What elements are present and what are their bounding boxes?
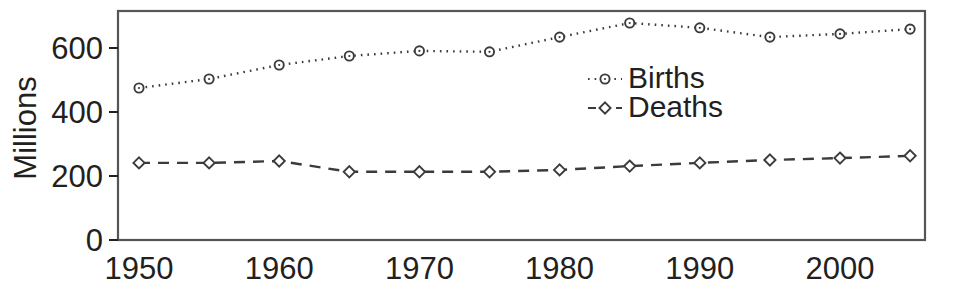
data-point-center: [769, 36, 771, 38]
data-point-marker: [764, 154, 775, 165]
data-point-center: [418, 50, 420, 52]
data-point-marker: [484, 166, 495, 177]
data-point-center: [559, 36, 561, 38]
series-line: [139, 156, 910, 172]
data-point-center: [699, 27, 701, 29]
series-line: [139, 23, 910, 88]
data-point-center: [208, 78, 210, 80]
data-point-center: [348, 55, 350, 57]
plot-area-border: [118, 11, 925, 240]
series-deaths: [133, 150, 915, 177]
x-tick-label: 1990: [665, 251, 734, 286]
data-point-marker: [834, 153, 845, 164]
data-point-marker: [133, 157, 144, 168]
y-tick-label: 600: [51, 31, 103, 66]
chart-legend: BirthsDeaths: [588, 61, 723, 123]
legend-item-deaths: Deaths: [588, 90, 723, 123]
data-point-marker: [274, 155, 285, 166]
data-point-marker: [204, 157, 215, 168]
chart-container: 0200400600195019601970198019902000Millio…: [0, 0, 958, 289]
x-tick-label: 2000: [806, 251, 875, 286]
axis-ticks: [109, 48, 118, 240]
data-point-marker: [624, 161, 635, 172]
y-tick-label: 400: [51, 95, 103, 130]
data-point-center: [909, 28, 911, 30]
data-point-marker: [905, 150, 916, 161]
line-chart: 0200400600195019601970198019902000Millio…: [0, 0, 958, 289]
legend-marker-center: [604, 78, 606, 80]
legend-label: Deaths: [628, 90, 723, 123]
x-tick-label: 1970: [385, 251, 454, 286]
plot-frame: [118, 11, 925, 240]
data-point-center: [278, 64, 280, 66]
data-point-center: [629, 22, 631, 24]
y-tick-label: 200: [51, 159, 103, 194]
y-tick-label: 0: [86, 223, 103, 258]
legend-marker: [599, 102, 610, 113]
y-axis-title: Millions: [8, 76, 43, 179]
x-tick-label: 1960: [245, 251, 314, 286]
data-point-center: [138, 87, 140, 89]
series-births: [134, 18, 914, 92]
x-tick-label: 1950: [105, 251, 174, 286]
data-point-marker: [414, 166, 425, 177]
data-series-group: [133, 18, 915, 177]
data-point-marker: [694, 157, 705, 168]
data-point-center: [488, 51, 490, 53]
data-point-marker: [344, 166, 355, 177]
data-point-marker: [554, 164, 565, 175]
data-point-center: [839, 33, 841, 35]
x-tick-label: 1980: [525, 251, 594, 286]
